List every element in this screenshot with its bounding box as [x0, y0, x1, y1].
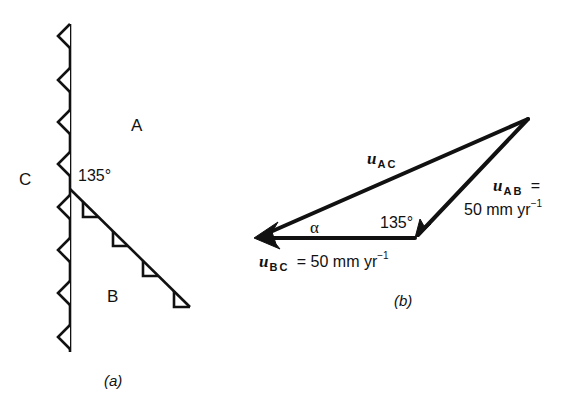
region-label-b: B: [107, 288, 118, 305]
caption-a: (a): [104, 373, 122, 388]
caption-b: (b): [394, 293, 412, 308]
boundary-diagonal: [70, 189, 190, 307]
label-uac-symbol: u: [367, 149, 376, 168]
angle-alpha-label: α: [310, 219, 319, 236]
figure: A C B 135° (a) uAC uAB = 50 mm yr−1 uBC …: [0, 0, 580, 404]
label-uab-sub: AB: [503, 185, 523, 197]
label-uab: uAB =: [493, 177, 540, 194]
junction-angle-label: 135°: [78, 168, 111, 184]
label-ubc-sub: BC: [269, 261, 289, 273]
label-ubc-symbol: u: [259, 252, 268, 271]
label-uac-sub: AC: [377, 158, 397, 170]
label-uab-eq: =: [531, 177, 540, 194]
inner-angle-label: 135°: [380, 215, 413, 231]
label-ubc-value: = 50 mm yr: [297, 253, 377, 270]
teeth-vertical: [58, 24, 70, 349]
panel-a-boundaries: [58, 24, 190, 352]
label-uac: uAC: [367, 150, 397, 167]
label-ubc-exp: −1: [377, 250, 388, 261]
label-uab-exp: −1: [531, 198, 542, 209]
region-label-a: A: [131, 117, 142, 134]
region-label-c: C: [19, 171, 31, 188]
label-uab-value-text: 50 mm yr: [464, 201, 531, 218]
label-uab-value: 50 mm yr−1: [464, 201, 542, 218]
label-ubc: uBC = 50 mm yr−1: [259, 253, 389, 270]
label-uab-symbol: u: [493, 176, 502, 195]
arrowhead-left: [254, 222, 280, 249]
